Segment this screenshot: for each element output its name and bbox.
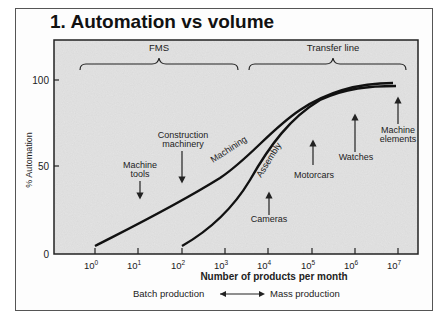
svg-text:Cameras: Cameras bbox=[251, 214, 288, 224]
transfer-line-label: Transfer line bbox=[307, 42, 359, 53]
x-tick-1e6: 106 bbox=[344, 259, 359, 271]
x-tick-1e4: 104 bbox=[257, 259, 272, 271]
batch-production-label: Batch production bbox=[133, 288, 204, 299]
y-tick-100: 100 bbox=[32, 75, 49, 86]
x-tick-1e3: 103 bbox=[214, 259, 229, 271]
x-axis-label: Number of products per month bbox=[200, 271, 347, 282]
fms-label: FMS bbox=[149, 42, 169, 53]
y-tick-0: 0 bbox=[43, 249, 49, 260]
x-tick-1e2: 102 bbox=[171, 259, 186, 271]
y-axis-label: % Automation bbox=[24, 132, 34, 188]
svg-text:machinery: machinery bbox=[162, 139, 204, 149]
svg-text:Motorcars: Motorcars bbox=[294, 170, 335, 180]
arrow-left-icon bbox=[220, 291, 226, 297]
x-tick-1e5: 105 bbox=[301, 259, 316, 271]
svg-text:tools: tools bbox=[130, 169, 150, 179]
svg-text:Watches: Watches bbox=[339, 152, 374, 162]
x-tick-1e0: 100 bbox=[84, 259, 99, 271]
chart-svg: 100 50 0 % Automation 100 101 102 103 10… bbox=[0, 0, 439, 322]
x-tick-1e7: 107 bbox=[387, 259, 402, 271]
svg-text:elements: elements bbox=[380, 134, 417, 144]
x-tick-1e1: 101 bbox=[127, 259, 142, 271]
y-tick-50: 50 bbox=[38, 161, 50, 172]
arrow-right-icon bbox=[259, 291, 265, 297]
mass-production-label: Mass production bbox=[270, 288, 340, 299]
